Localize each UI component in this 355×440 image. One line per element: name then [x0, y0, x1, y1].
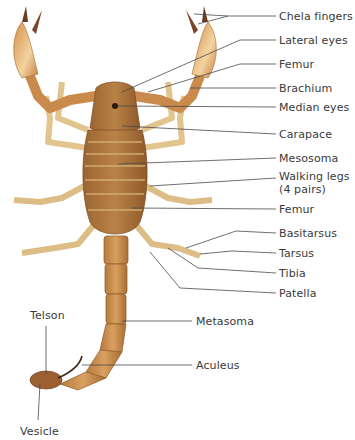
label-mesosoma: Mesosoma — [279, 153, 338, 165]
label-femur-lower: Femur — [279, 204, 314, 216]
label-femur-upper: Femur — [279, 59, 314, 71]
metasoma-segments — [60, 236, 128, 390]
label-vesicle: Vesicle — [20, 426, 59, 438]
pedipalp-right — [134, 6, 216, 108]
pedipalp-left — [14, 6, 96, 108]
mesosoma-shape — [83, 130, 147, 234]
label-metasoma: Metasoma — [196, 316, 254, 328]
label-median-eyes: Median eyes — [279, 102, 349, 114]
scorpion-anatomy-diagram: Chela fingers Lateral eyes Femur Brachiu… — [0, 0, 355, 440]
label-carapace: Carapace — [279, 129, 332, 141]
median-eyes-dot — [112, 103, 118, 109]
label-aculeus: Aculeus — [196, 360, 240, 372]
leader-lines — [38, 14, 276, 420]
label-lateral-eyes: Lateral eyes — [279, 35, 348, 47]
label-telson: Telson — [30, 310, 65, 322]
label-walking-legs: Walking legs — [279, 171, 350, 183]
label-tibia: Tibia — [279, 268, 306, 280]
label-basitarsus: Basitarsus — [279, 228, 337, 240]
label-tarsus: Tarsus — [279, 248, 314, 260]
label-walking-legs-count: (4 pairs) — [279, 184, 326, 196]
label-chela-fingers: Chela fingers — [279, 11, 353, 23]
aculeus-shape — [58, 356, 82, 378]
label-brachium: Brachium — [279, 83, 332, 95]
label-patella: Patella — [279, 288, 317, 300]
